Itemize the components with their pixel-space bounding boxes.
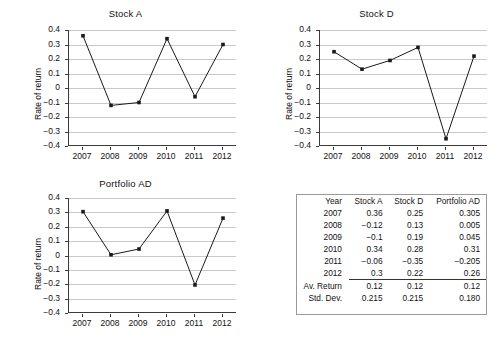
chart-title-stock-d: Stock D <box>251 8 502 19</box>
data-point-marker <box>193 283 197 287</box>
y-tick-label: −0.1 <box>285 97 311 107</box>
x-tick-mark <box>445 147 446 150</box>
y-tick-mark <box>65 45 68 46</box>
y-tick-label: 0.2 <box>34 53 60 63</box>
table-row: 2009 −0.1 0.19 0.045 <box>297 231 486 243</box>
x-tick-mark <box>194 147 195 150</box>
y-tick-label: 0.1 <box>285 68 311 78</box>
y-tick-mark <box>65 30 68 31</box>
y-tick-label: 0.2 <box>285 53 311 63</box>
summary-label-std-dev: Std. Dev. <box>297 292 349 304</box>
y-tick-mark <box>65 103 68 104</box>
y-tick-label: 0.3 <box>34 206 60 216</box>
y-tick-mark <box>65 117 68 118</box>
y-tick-label: 0 <box>34 82 60 92</box>
chart-panel-portfolio-ad: Portfolio AD Rate of return 0.40.30.20.1… <box>0 170 251 339</box>
summary-portfolio-ad: 0.180 <box>429 292 486 304</box>
table-row: 2008 −0.12 0.13 0.005 <box>297 219 486 231</box>
y-tick-mark <box>65 59 68 60</box>
y-tick-label: −0.1 <box>34 97 60 107</box>
y-tick-mark <box>65 212 68 213</box>
data-point-marker <box>472 54 476 58</box>
y-tick-label: 0.4 <box>285 24 311 34</box>
y-tick-label: 0 <box>285 82 311 92</box>
y-tick-label: −0.4 <box>285 140 311 150</box>
cell-stock-d: 0.25 <box>389 207 430 219</box>
y-tick-mark <box>65 256 68 257</box>
table-summary-row: Std. Dev. 0.215 0.215 0.180 <box>297 292 486 304</box>
x-tick-mark <box>333 147 334 150</box>
cell-portfolio-ad: −0.205 <box>429 255 486 267</box>
x-tick-mark <box>138 147 139 150</box>
summary-stock-d: 0.12 <box>389 280 430 293</box>
summary-stock-a: 0.12 <box>349 280 389 293</box>
y-tick-mark <box>316 74 319 75</box>
summary-portfolio-ad: 0.12 <box>429 280 486 293</box>
table-summary-row: Av. Return 0.12 0.12 0.12 <box>297 280 486 293</box>
series-line-stock-a <box>69 30 237 146</box>
y-tick-mark <box>65 284 68 285</box>
x-tick-mark <box>110 147 111 150</box>
plot-area-portfolio-ad <box>68 198 236 313</box>
y-tick-mark <box>65 313 68 314</box>
x-tick-mark <box>222 147 223 150</box>
y-tick-label: −0.4 <box>34 140 60 150</box>
chart-title-portfolio-ad: Portfolio AD <box>0 178 251 189</box>
x-tick-mark <box>138 314 139 317</box>
table-header-stock-a: Stock A <box>349 195 389 207</box>
y-tick-mark <box>65 74 68 75</box>
cell-stock-d: −0.35 <box>389 255 430 267</box>
y-tick-mark <box>316 88 319 89</box>
cell-portfolio-ad: 0.31 <box>429 243 486 255</box>
data-point-marker <box>81 34 85 38</box>
cell-stock-a: 0.3 <box>349 267 389 280</box>
cell-year: 2008 <box>297 219 349 231</box>
table-row: 2011 −0.06 −0.35 −0.205 <box>297 255 486 267</box>
chart-panel-stock-a: Stock A Rate of return 0.40.30.20.10−0.1… <box>0 0 251 168</box>
data-point-marker <box>137 247 141 251</box>
cell-year: 2010 <box>297 243 349 255</box>
cell-stock-a: −0.1 <box>349 231 389 243</box>
data-point-marker <box>332 50 336 54</box>
y-tick-label: −0.3 <box>34 126 60 136</box>
cell-stock-d: 0.28 <box>389 243 430 255</box>
x-tick-label: 2012 <box>456 151 490 161</box>
x-tick-mark <box>82 147 83 150</box>
x-tick-mark <box>166 314 167 317</box>
x-tick-mark <box>166 147 167 150</box>
y-tick-mark <box>65 198 68 199</box>
cell-year: 2007 <box>297 207 349 219</box>
series-line-stock-d <box>320 30 488 146</box>
x-tick-mark <box>361 147 362 150</box>
data-point-marker <box>109 253 113 257</box>
cell-stock-d: 0.22 <box>389 267 430 280</box>
data-point-marker <box>444 137 448 141</box>
cell-stock-a: −0.12 <box>349 219 389 231</box>
y-tick-mark <box>65 88 68 89</box>
data-point-marker <box>137 101 141 105</box>
data-point-marker <box>416 46 420 50</box>
cell-year: 2011 <box>297 255 349 267</box>
cell-portfolio-ad: 0.305 <box>429 207 486 219</box>
table-header-portfolio-ad: Portfolio AD <box>429 195 486 207</box>
y-tick-mark <box>316 117 319 118</box>
y-tick-label: −0.2 <box>34 278 60 288</box>
cell-stock-a: −0.06 <box>349 255 389 267</box>
y-tick-label: −0.4 <box>34 307 60 317</box>
cell-portfolio-ad: 0.26 <box>429 267 486 280</box>
y-tick-label: 0.3 <box>34 39 60 49</box>
cell-stock-d: 0.13 <box>389 219 430 231</box>
summary-stock-a: 0.215 <box>349 292 389 304</box>
data-point-marker <box>360 67 364 71</box>
y-tick-mark <box>65 270 68 271</box>
cell-stock-a: 0.36 <box>349 207 389 219</box>
data-point-marker <box>165 209 169 213</box>
table-header-stock-d: Stock D <box>389 195 430 207</box>
x-tick-mark <box>222 314 223 317</box>
cell-year: 2009 <box>297 231 349 243</box>
chart-title-stock-a: Stock A <box>0 8 251 19</box>
y-tick-mark <box>316 146 319 147</box>
plot-area-stock-a <box>68 30 236 146</box>
x-tick-mark <box>417 147 418 150</box>
cell-portfolio-ad: 0.005 <box>429 219 486 231</box>
